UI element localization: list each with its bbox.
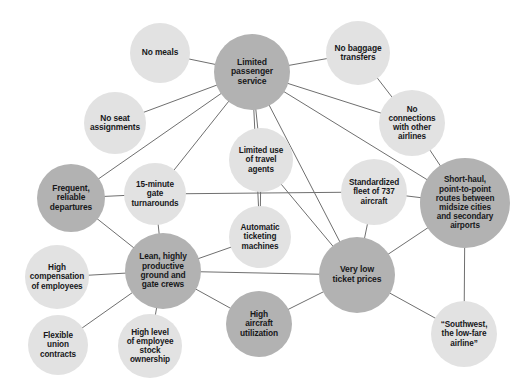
node-label-limited-passenger-service: Limited passenger service	[229, 58, 275, 87]
node-high-aircraft-utilization[interactable]: High aircraft utilization	[226, 291, 292, 357]
edge-standardized-fleet-737--short-haul-point-to-point	[406, 196, 422, 198]
node-no-seat-assignments[interactable]: No seat assignments	[84, 92, 146, 154]
node-label-high-level-stock-ownership: High level of employee stock ownership	[125, 328, 176, 365]
node-standardized-fleet-737[interactable]: Standardized fleet of 737 aircraft	[341, 159, 407, 225]
edge-lean-productive-crews--high-aircraft-utilization	[195, 289, 231, 309]
node-label-very-low-ticket-prices: Very low ticket prices	[331, 265, 384, 284]
edge-limited-passenger-service--fifteen-minute-turnarounds	[174, 101, 229, 171]
node-short-haul-point-to-point[interactable]: Short-haul, point-to-point routes betwee…	[420, 158, 510, 248]
node-limited-passenger-service[interactable]: Limited passenger service	[214, 34, 290, 110]
edge-frequent-reliable-departures--lean-productive-crews	[97, 219, 134, 248]
node-no-connections[interactable]: No connections with other airlines	[379, 90, 445, 156]
node-lean-productive-crews[interactable]: Lean, highly productive ground and gate …	[125, 233, 201, 309]
edge-no-connections--short-haul-point-to-point	[430, 150, 441, 167]
node-label-limited-use-travel-agents: Limited use of travel agents	[237, 146, 285, 174]
edge-no-baggage-transfers--no-connections	[377, 78, 393, 98]
node-frequent-reliable-departures[interactable]: Frequent, reliable departures	[37, 164, 105, 232]
node-limited-use-travel-agents[interactable]: Limited use of travel agents	[229, 128, 293, 192]
node-label-automatic-ticketing: Automatic ticketing machines	[238, 223, 281, 251]
node-label-no-meals: No meals	[140, 48, 180, 57]
node-label-flexible-union-contracts: Flexible union contracts	[38, 331, 78, 359]
edge-fifteen-minute-turnarounds--standardized-fleet-737	[185, 192, 342, 193]
node-label-no-baggage-transfers: No baggage transfers	[333, 44, 384, 63]
edge-very-low-ticket-prices--southwest-low-fare-airline	[389, 293, 436, 319]
node-label-no-connections: No connections with other airlines	[386, 105, 437, 142]
node-label-standardized-fleet-737: Standardized fleet of 737 aircraft	[347, 178, 401, 206]
edge-lean-productive-crews--flexible-union-contracts	[82, 292, 133, 328]
node-high-level-stock-ownership[interactable]: High level of employee stock ownership	[118, 314, 182, 378]
edge-lean-productive-crews--high-compensation	[88, 273, 126, 275]
edge-limited-passenger-service--no-meals	[188, 59, 215, 65]
edge-limited-passenger-service--limited-use-travel-agents	[256, 109, 258, 129]
edge-fifteen-minute-turnarounds--frequent-reliable-departures	[104, 195, 125, 196]
edge-standardized-fleet-737--very-low-ticket-prices	[364, 223, 367, 238]
node-automatic-ticketing[interactable]: Automatic ticketing machines	[229, 206, 291, 268]
node-label-high-compensation: High compensation of employees	[28, 263, 86, 291]
edge-short-haul-point-to-point--very-low-ticket-prices	[388, 227, 429, 254]
node-southwest-low-fare-airline[interactable]: “Southwest, the low-fare airline”	[431, 301, 497, 367]
node-very-low-ticket-prices[interactable]: Very low ticket prices	[319, 237, 395, 313]
node-label-short-haul-point-to-point: Short-haul, point-to-point routes betwee…	[434, 175, 497, 230]
node-no-baggage-transfers[interactable]: No baggage transfers	[326, 21, 390, 85]
node-label-southwest-low-fare-airline: “Southwest, the low-fare airline”	[439, 320, 490, 348]
edge-lean-productive-crews--automatic-ticketing	[198, 247, 232, 259]
node-label-fifteen-minute-turnarounds: 15-minute gate turnarounds	[129, 180, 180, 208]
node-flexible-union-contracts[interactable]: Flexible union contracts	[28, 315, 88, 375]
node-no-meals[interactable]: No meals	[130, 23, 190, 83]
node-label-lean-productive-crews: Lean, highly productive ground and gate …	[137, 252, 189, 290]
node-label-frequent-reliable-departures: Frequent, reliable departures	[48, 184, 94, 212]
node-label-no-seat-assignments: No seat assignments	[88, 114, 142, 133]
node-fifteen-minute-turnarounds[interactable]: 15-minute gate turnarounds	[124, 163, 186, 225]
activity-system-diagram: Limited passenger serviceNo mealsNo seat…	[0, 0, 514, 388]
edge-limited-passenger-service--no-seat-assignments	[143, 85, 217, 113]
edge-high-aircraft-utilization--very-low-ticket-prices	[288, 292, 324, 310]
edge-limited-passenger-service--no-connections	[287, 83, 381, 113]
edge-limited-passenger-service--no-baggage-transfers	[288, 58, 327, 65]
edge-lean-productive-crews--very-low-ticket-prices	[200, 272, 320, 274]
node-label-high-aircraft-utilization: High aircraft utilization	[238, 310, 280, 338]
node-high-compensation[interactable]: High compensation of employees	[25, 245, 89, 309]
